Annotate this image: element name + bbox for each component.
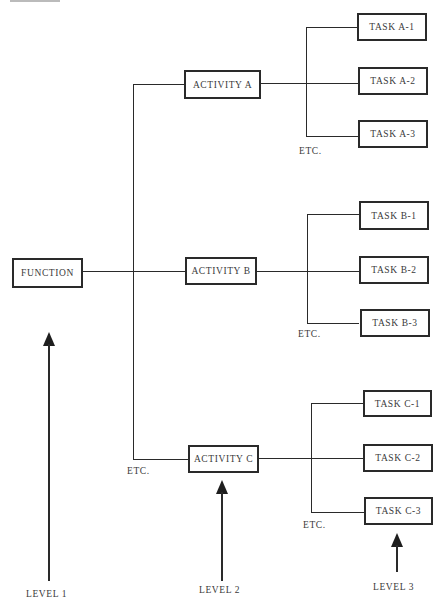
task-c-1-label: TASK C-1	[375, 399, 420, 409]
task-c-etc-label: ETC.	[303, 520, 326, 530]
connector-task-b-3	[307, 323, 359, 324]
task-a-1-label: TASK A-1	[369, 22, 414, 32]
level-1-label: LEVEL 1	[26, 589, 67, 599]
activity-trunk-line	[133, 84, 134, 460]
activities-etc-label: ETC.	[127, 466, 150, 476]
connector-task-a-3	[306, 136, 358, 137]
activity-a-box: ACTIVITY A	[184, 70, 261, 99]
connector-task-c-3	[311, 512, 364, 513]
task-b-1-box: TASK B-1	[359, 201, 429, 230]
task-a-trunk-line	[306, 27, 307, 137]
task-b-2-label: TASK B-2	[371, 265, 416, 275]
task-c-2-label: TASK C-2	[375, 453, 420, 463]
task-a-2-box: TASK A-2	[358, 67, 428, 95]
task-a-3-box: TASK A-3	[358, 120, 428, 148]
task-c-2-box: TASK C-2	[363, 444, 433, 472]
task-a-1-box: TASK A-1	[357, 13, 427, 41]
level-3-arrow-shaft	[396, 545, 398, 572]
connector-trunk-to-activity-a	[133, 84, 184, 85]
task-a-etc-label: ETC.	[299, 146, 322, 156]
connector-function-to-activity-b	[83, 271, 185, 272]
task-a-2-label: TASK A-2	[370, 76, 415, 86]
level-3-label: LEVEL 3	[373, 582, 414, 592]
function-label: FUNCTION	[21, 268, 74, 278]
level-2-label: LEVEL 2	[199, 585, 240, 595]
function-box: FUNCTION	[12, 258, 83, 288]
level-2-arrow-shaft	[221, 492, 223, 581]
task-c-3-box: TASK C-3	[364, 497, 433, 525]
connector-task-c-1	[311, 403, 363, 404]
activity-c-label: ACTIVITY C	[194, 454, 253, 464]
connector-trunk-to-activity-c	[133, 459, 188, 460]
connector-activity-a-to-tasks	[261, 83, 358, 84]
cropped-header-fragment	[10, 0, 60, 6]
activity-b-box: ACTIVITY B	[185, 257, 257, 285]
task-c-trunk-line	[311, 403, 312, 513]
connector-task-a-1	[306, 27, 357, 28]
activity-a-label: ACTIVITY A	[193, 80, 252, 90]
level-1-arrow-shaft	[48, 344, 50, 581]
task-c-3-label: TASK C-3	[376, 506, 421, 516]
task-b-1-label: TASK B-1	[371, 211, 416, 221]
task-b-trunk-line	[307, 214, 308, 323]
task-b-3-label: TASK B-3	[372, 318, 417, 328]
activity-b-label: ACTIVITY B	[191, 266, 250, 276]
task-b-etc-label: ETC.	[298, 329, 321, 339]
task-b-2-box: TASK B-2	[359, 256, 429, 284]
connector-activity-b-to-tasks	[257, 271, 359, 272]
task-b-3-box: TASK B-3	[360, 309, 430, 337]
activity-c-box: ACTIVITY C	[188, 445, 259, 473]
task-a-3-label: TASK A-3	[370, 129, 415, 139]
task-c-1-box: TASK C-1	[363, 390, 432, 417]
connector-task-b-1	[307, 214, 359, 215]
